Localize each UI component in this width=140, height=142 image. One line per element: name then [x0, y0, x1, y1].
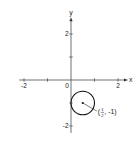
marks: [71, 91, 97, 115]
point-annotation: ( 1 2 , -1): [98, 107, 117, 118]
x-axis-label: x: [129, 76, 133, 83]
x-tick-label: 0: [65, 82, 69, 89]
y-axis-label: y: [69, 9, 73, 17]
x-axis-arrow: [124, 78, 128, 81]
y-axis-arrow: [69, 17, 72, 21]
y-tick-label: 2: [65, 30, 69, 37]
axes: [19, 17, 128, 133]
y-tick-label: -2: [63, 122, 69, 129]
chart: -2022-2 x y ( 1 2 , -1): [0, 0, 140, 142]
x-tick-label: -2: [21, 82, 27, 89]
annotation-close: , -1): [104, 108, 116, 116]
x-tick-label: 2: [116, 82, 120, 89]
